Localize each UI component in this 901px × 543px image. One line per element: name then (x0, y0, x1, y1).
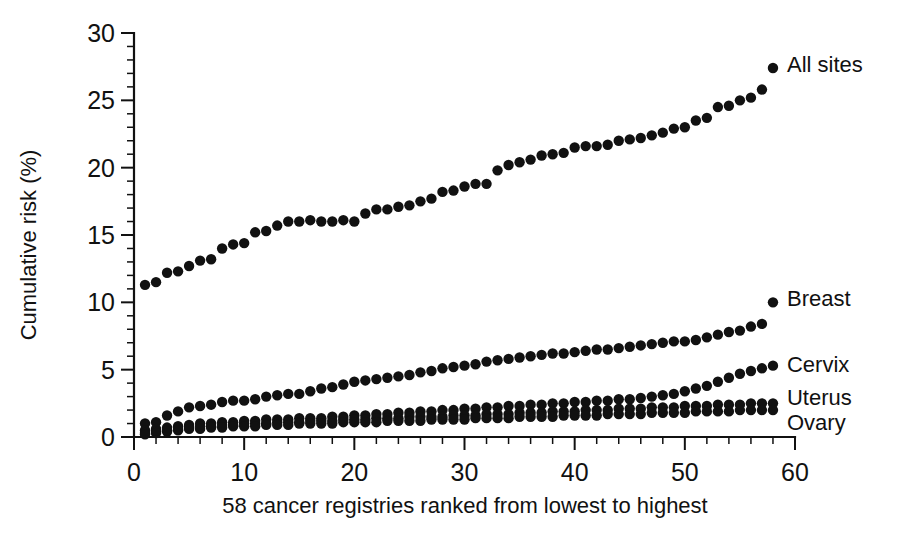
data-point (536, 350, 546, 360)
data-point (658, 338, 668, 348)
data-point (669, 123, 679, 133)
data-point (536, 150, 546, 160)
data-point (217, 397, 227, 407)
data-point (636, 409, 646, 419)
data-point (294, 389, 304, 399)
data-point (636, 393, 646, 403)
data-point (724, 327, 734, 337)
data-point (614, 136, 624, 146)
data-point (228, 421, 238, 431)
data-point (184, 424, 194, 434)
data-point (217, 422, 227, 432)
data-point (702, 381, 712, 391)
data-point (404, 200, 414, 210)
data-point (250, 421, 260, 431)
data-point (702, 332, 712, 342)
data-point (580, 141, 590, 151)
data-point (592, 141, 602, 151)
x-axis-title: 58 cancer registries ranked from lowest … (222, 493, 707, 518)
data-point (404, 370, 414, 380)
data-point (305, 215, 315, 225)
series-label-ovary: Ovary (787, 410, 846, 435)
data-point (614, 343, 624, 353)
data-point (415, 196, 425, 206)
data-point (713, 102, 723, 112)
data-point (305, 418, 315, 428)
data-point (360, 417, 370, 427)
data-point (217, 243, 227, 253)
data-point (206, 422, 216, 432)
x-axis: 0102030405060 (127, 437, 809, 486)
data-point (768, 63, 778, 73)
data-point (426, 414, 436, 424)
data-point (592, 395, 602, 405)
data-point (547, 149, 557, 159)
data-point (173, 266, 183, 276)
series-all-sites (140, 63, 778, 290)
data-point (669, 336, 679, 346)
data-point (514, 412, 524, 422)
data-point (404, 416, 414, 426)
data-point (228, 395, 238, 405)
data-point (658, 408, 668, 418)
data-point (547, 348, 557, 358)
data-point (415, 416, 425, 426)
data-point (569, 397, 579, 407)
data-point (680, 408, 690, 418)
data-point (393, 416, 403, 426)
data-point (503, 413, 513, 423)
data-point (195, 401, 205, 411)
data-point (426, 193, 436, 203)
data-point (614, 409, 624, 419)
data-point (735, 369, 745, 379)
y-tick-label: 25 (87, 86, 115, 114)
data-point (459, 360, 469, 370)
data-point (261, 420, 271, 430)
data-point (492, 165, 502, 175)
data-point (713, 329, 723, 339)
data-point (636, 340, 646, 350)
data-point (746, 321, 756, 331)
data-point (393, 371, 403, 381)
data-point (514, 352, 524, 362)
data-point (603, 395, 613, 405)
data-point (614, 394, 624, 404)
data-point (206, 399, 216, 409)
series-label-uterus: Uterus (787, 385, 852, 410)
data-point (338, 379, 348, 389)
data-point (547, 412, 557, 422)
data-point (525, 351, 535, 361)
chart-figure: 051015202530 0102030405060 All sitesBrea… (0, 0, 901, 543)
data-point (603, 140, 613, 150)
data-point (658, 390, 668, 400)
data-point (448, 362, 458, 372)
data-point (393, 202, 403, 212)
data-point (558, 148, 568, 158)
data-point (768, 405, 778, 415)
data-point (140, 280, 150, 290)
data-point (437, 187, 447, 197)
data-point (757, 363, 767, 373)
data-point (426, 366, 436, 376)
data-point (569, 347, 579, 357)
y-tick-label: 20 (87, 154, 115, 182)
data-point (647, 130, 657, 140)
data-point (536, 412, 546, 422)
data-point (569, 410, 579, 420)
data-point (735, 95, 745, 105)
data-point (250, 227, 260, 237)
data-point (625, 409, 635, 419)
data-point (470, 179, 480, 189)
series-ovary (140, 405, 778, 440)
data-point (371, 374, 381, 384)
data-point (162, 410, 172, 420)
data-point (669, 389, 679, 399)
data-point (691, 383, 701, 393)
data-point (481, 356, 491, 366)
data-point (316, 418, 326, 428)
data-point (492, 355, 502, 365)
data-point (625, 134, 635, 144)
data-point (569, 142, 579, 152)
data-point (459, 414, 469, 424)
data-point (514, 157, 524, 167)
